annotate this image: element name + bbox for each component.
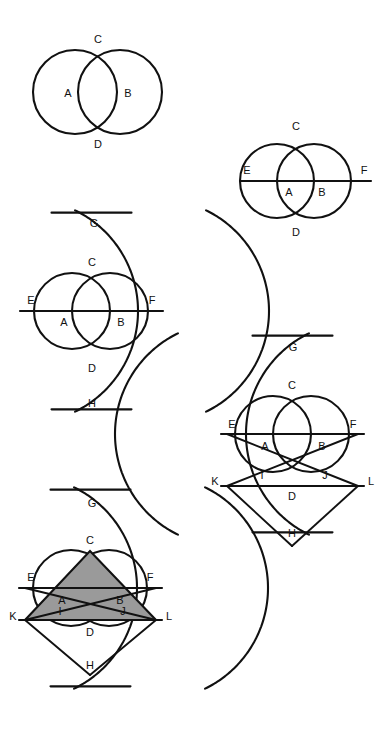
label-c: C — [88, 256, 96, 268]
label-k: K — [9, 610, 17, 622]
label-d: D — [86, 626, 94, 638]
label-a: A — [60, 316, 68, 328]
label-k: K — [211, 475, 219, 487]
label-d: D — [288, 490, 296, 502]
label-e: E — [27, 571, 34, 583]
label-a: A — [285, 186, 293, 198]
label-a: A — [64, 87, 72, 99]
label-b: B — [117, 316, 124, 328]
label-e: E — [243, 164, 250, 176]
label-l: L — [166, 610, 172, 622]
label-a: A — [261, 440, 269, 452]
label-h: H — [88, 397, 96, 409]
label-g: G — [90, 217, 99, 229]
label-i: I — [58, 605, 61, 617]
label-h: H — [288, 527, 296, 539]
label-d: D — [292, 226, 300, 238]
label-g: G — [289, 341, 298, 353]
label-e: E — [27, 294, 34, 306]
geometric-construction-diagram: C A B D C E F A B D G C E F A B D H — [0, 0, 391, 736]
label-l: L — [368, 475, 374, 487]
label-d: D — [88, 362, 96, 374]
label-d: D — [94, 138, 102, 150]
label-f: F — [149, 294, 156, 306]
label-f: F — [361, 164, 368, 176]
label-f: F — [350, 418, 357, 430]
label-b: B — [124, 87, 131, 99]
label-c: C — [288, 379, 296, 391]
label-g: G — [88, 497, 97, 509]
label-c: C — [292, 120, 300, 132]
label-j: J — [120, 605, 126, 617]
label-b: B — [318, 440, 325, 452]
label-i: I — [260, 469, 263, 481]
label-c: C — [94, 33, 102, 45]
label-b: B — [318, 186, 325, 198]
label-h: H — [86, 659, 94, 671]
label-e: E — [228, 418, 235, 430]
label-j: J — [322, 469, 328, 481]
label-f: F — [147, 571, 154, 583]
page-background — [0, 0, 391, 736]
label-c: C — [86, 534, 94, 546]
